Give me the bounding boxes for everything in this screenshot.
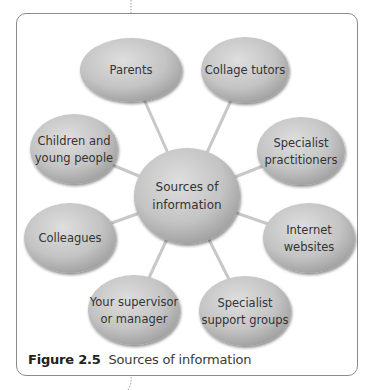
internet-websites-label-line: websites xyxy=(284,240,335,254)
node-internet-websites: Internetwebsites xyxy=(263,203,355,273)
internet-websites-label-line: Internet xyxy=(286,223,332,237)
bottom-guide-line xyxy=(128,377,131,390)
center-label-line: information xyxy=(152,198,221,212)
specialist-support-groups-label-line: support groups xyxy=(201,313,288,327)
specialist-support-groups-label-line: Specialist xyxy=(217,296,273,310)
colleagues-label-line: Colleagues xyxy=(38,231,101,245)
children-young-people-ellipse xyxy=(30,114,118,184)
specialist-practitioners-label-line: Specialist xyxy=(273,136,329,150)
specialist-practitioners-ellipse xyxy=(257,117,345,185)
specialist-practitioners-label-line: practitioners xyxy=(265,153,338,167)
specialist-support-groups-ellipse xyxy=(199,276,291,346)
children-young-people-label-line: Children and xyxy=(37,134,110,148)
node-specialist-practitioners: Specialistpractitioners xyxy=(257,117,345,185)
figure-label: Figure 2.5 xyxy=(28,352,101,367)
center-node: Sources ofinformation xyxy=(134,148,240,244)
internet-websites-ellipse xyxy=(263,203,355,273)
supervisor-manager-label-line: or manager xyxy=(100,312,167,326)
children-young-people-label-line: young people xyxy=(35,151,113,165)
node-specialist-support-groups: Specialistsupport groups xyxy=(199,276,291,346)
node-collage-tutors: Collage tutors xyxy=(201,37,289,103)
figure-caption: Figure 2.5 Sources of information xyxy=(28,352,251,367)
figure-title: Sources of information xyxy=(109,352,252,367)
node-children-young-people: Children andyoung people xyxy=(30,114,118,184)
center-ellipse xyxy=(134,148,240,244)
node-parents: Parents xyxy=(80,38,182,102)
supervisor-manager-label-line: Your supervisor xyxy=(89,295,179,309)
node-supervisor-manager: Your supervisoror manager xyxy=(88,275,180,345)
spider-diagram: ParentsCollage tutorsChildren andyoung p… xyxy=(0,0,368,390)
collage-tutors-label-line: Collage tutors xyxy=(205,63,286,77)
parents-label-line: Parents xyxy=(110,63,153,77)
supervisor-manager-ellipse xyxy=(88,275,180,345)
nodes: ParentsCollage tutorsChildren andyoung p… xyxy=(24,37,355,346)
center-label-line: Sources of xyxy=(156,180,220,194)
node-colleagues: Colleagues xyxy=(24,203,116,273)
